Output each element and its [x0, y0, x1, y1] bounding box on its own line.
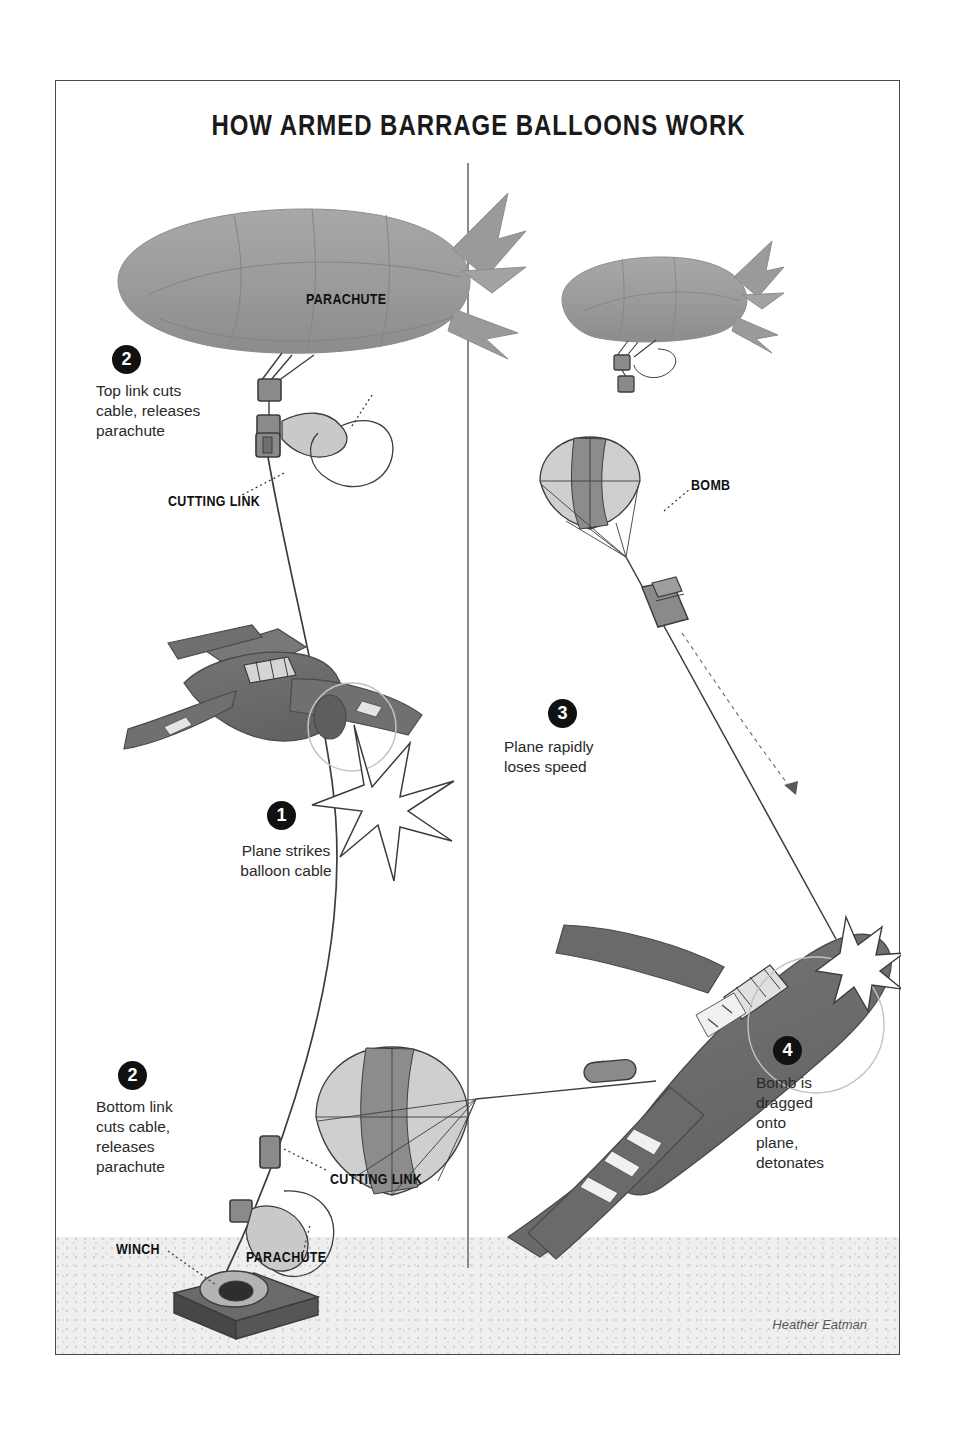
tow-line: [476, 1081, 656, 1099]
infographic-page: HOW ARMED BARRAGE BALLOONS WORK: [0, 0, 954, 1456]
callout-winch: WINCH: [116, 1241, 160, 1257]
leader-bomb: [664, 489, 690, 511]
balloon-envelope: [118, 209, 470, 353]
balloon-rear-fin: [462, 267, 526, 293]
callout-parachute-top: PARACHUTE: [306, 291, 386, 307]
parachute-stowed-top: [282, 413, 347, 457]
step-1-badge: 1: [267, 801, 296, 830]
step-2-bottom-text: Bottom link cuts cable, releases parachu…: [96, 1097, 226, 1177]
barrage-balloon-large-group: [118, 193, 526, 359]
infographic-frame: HOW ARMED BARRAGE BALLOONS WORK: [55, 80, 900, 1355]
page-title: HOW ARMED BARRAGE BALLOONS WORK: [141, 108, 817, 142]
balloon-lower-fin: [448, 309, 518, 359]
motion-path: [682, 633, 796, 795]
detonation-burst: [816, 917, 901, 1011]
propeller-disc-left: [308, 683, 396, 771]
callout-parachute-bottom: PARACHUTE: [246, 1249, 326, 1265]
step-2-top-badge: 2: [112, 345, 141, 374]
step-4-text: Bomb is dragged onto plane, detonates: [756, 1073, 876, 1173]
ground-strip: [56, 1237, 899, 1354]
dragged-bomb: [583, 1059, 637, 1083]
bomb-on-cable: [642, 577, 688, 627]
plane-upper-wing-right: [556, 925, 724, 993]
plane-left-wing-left: [124, 691, 236, 749]
plane-lower-wing-right: [528, 1087, 704, 1259]
step-2-bottom-badge: 2: [118, 1061, 147, 1090]
top-link-block: [258, 379, 281, 401]
plane-canopy-left: [244, 657, 296, 683]
step-3-badge: 3: [548, 699, 577, 728]
leader-parachute-top: [350, 395, 372, 429]
artist-credit: Heather Eatman: [772, 1317, 867, 1332]
plane-canopy-right: [724, 965, 788, 1019]
plane-fuselage-left: [184, 652, 342, 741]
second-link-block: [257, 415, 280, 437]
parachute-panel-upper: [572, 438, 608, 529]
callout-cutting-link-bottom: CUTTING LINK: [330, 1171, 422, 1187]
parachute-shrouds-upper: [542, 485, 638, 557]
parachute-deployed-upper-group: [540, 437, 640, 557]
step-4-badge: 4: [773, 1036, 802, 1065]
leader-cutting-link-top: [242, 473, 284, 495]
leader-cutting-link-bottom: [284, 1149, 328, 1171]
bottom-link-block: [230, 1200, 252, 1222]
motion-arrowhead: [784, 781, 798, 795]
bomb-cable-group: [626, 557, 836, 939]
callout-cutting-link-top: CUTTING LINK: [168, 493, 260, 509]
callout-bomb: BOMB: [691, 477, 730, 493]
parachute-line-top: [311, 421, 393, 487]
barrage-balloon-small-group: [562, 241, 784, 392]
cutting-link-top: [256, 433, 280, 457]
callout-leader-lines: [168, 395, 690, 1285]
step-3-text: Plane rapidly loses speed: [504, 737, 654, 777]
parachute-canopy-upper: [540, 437, 640, 529]
step-1-text: Plane strikes balloon cable: [196, 841, 376, 881]
cutting-link-bottom: [260, 1136, 280, 1168]
bomb-cable: [626, 557, 836, 939]
step-2-top-text: Top link cuts cable, releases parachute: [96, 381, 256, 441]
balloon-small-envelope: [562, 257, 747, 342]
fighter-plane-striking-cable-group: [124, 625, 422, 771]
plane-right-wing-left: [290, 679, 422, 735]
